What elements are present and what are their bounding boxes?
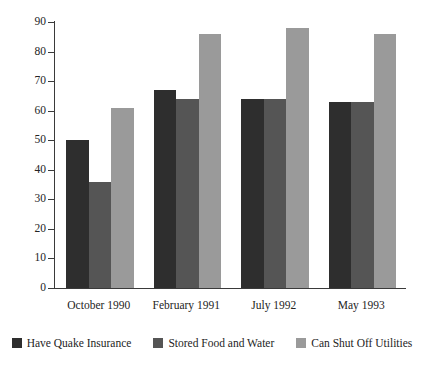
y-axis-tick-label: 80 bbox=[2, 46, 46, 58]
y-axis-label-slot: 90 bbox=[0, 16, 46, 28]
y-axis-tick-label: 10 bbox=[2, 252, 46, 264]
bar bbox=[351, 102, 374, 288]
bar-chart: 0102030405060708090 October 1990February… bbox=[0, 0, 424, 366]
y-axis-label-slot: 40 bbox=[0, 164, 46, 176]
y-axis-tick-label: 70 bbox=[2, 75, 46, 87]
y-axis-tick bbox=[48, 22, 54, 23]
y-axis-tick bbox=[48, 52, 54, 53]
legend-swatch-icon bbox=[296, 338, 306, 348]
legend-item[interactable]: Have Quake Insurance bbox=[12, 337, 132, 349]
y-axis-label-slot: 0 bbox=[0, 282, 46, 294]
y-axis-tick-label: 90 bbox=[2, 16, 46, 28]
legend-label: Stored Food and Water bbox=[168, 337, 274, 349]
legend-swatch-icon bbox=[12, 338, 22, 348]
y-axis-label-slot: 70 bbox=[0, 75, 46, 87]
bar bbox=[264, 99, 287, 288]
legend-label: Have Quake Insurance bbox=[27, 337, 132, 349]
bar-group bbox=[66, 22, 134, 288]
legend-item[interactable]: Can Shut Off Utilities bbox=[296, 337, 412, 349]
chart-legend: Have Quake InsuranceStored Food and Wate… bbox=[0, 337, 424, 349]
x-axis-category-label: May 1993 bbox=[303, 299, 421, 312]
y-axis-tick bbox=[48, 229, 54, 230]
bar-group bbox=[154, 22, 222, 288]
y-axis-tick-label: 30 bbox=[2, 193, 46, 205]
legend-item[interactable]: Stored Food and Water bbox=[153, 337, 274, 349]
y-axis-tick bbox=[48, 288, 54, 289]
y-axis-tick-label: 0 bbox=[2, 282, 46, 294]
y-axis-tick-label: 50 bbox=[2, 134, 46, 146]
y-axis-tick bbox=[48, 81, 54, 82]
y-axis-tick bbox=[48, 258, 54, 259]
bar bbox=[286, 28, 309, 288]
y-axis-label-slot: 80 bbox=[0, 46, 46, 58]
y-axis-tick bbox=[48, 170, 54, 171]
y-axis-tick bbox=[48, 140, 54, 141]
y-axis-label-slot: 60 bbox=[0, 105, 46, 117]
y-axis-label-slot: 20 bbox=[0, 223, 46, 235]
bar-group bbox=[241, 22, 309, 288]
y-axis-tick bbox=[48, 111, 54, 112]
y-axis-label-slot: 50 bbox=[0, 134, 46, 146]
bar bbox=[241, 99, 264, 288]
legend-swatch-icon bbox=[153, 338, 163, 348]
legend-label: Can Shut Off Utilities bbox=[311, 337, 412, 349]
y-axis-tick-label: 60 bbox=[2, 105, 46, 117]
y-axis-tick-label: 40 bbox=[2, 164, 46, 176]
y-axis-tick-label: 20 bbox=[2, 223, 46, 235]
bar bbox=[111, 108, 134, 288]
bar bbox=[329, 102, 352, 288]
x-axis-line bbox=[54, 288, 406, 289]
y-axis-tick bbox=[48, 199, 54, 200]
bar-group bbox=[329, 22, 397, 288]
y-axis-label-slot: 10 bbox=[0, 252, 46, 264]
y-axis-label-slot: 30 bbox=[0, 193, 46, 205]
bar bbox=[66, 140, 89, 288]
bar bbox=[89, 182, 112, 288]
bar bbox=[374, 34, 397, 288]
plot-area bbox=[55, 22, 405, 288]
bar bbox=[199, 34, 222, 288]
bar bbox=[176, 99, 199, 288]
bar bbox=[154, 90, 177, 288]
